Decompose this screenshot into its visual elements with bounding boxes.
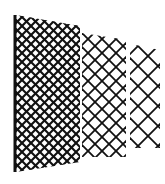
netting-illustration <box>0 0 165 184</box>
